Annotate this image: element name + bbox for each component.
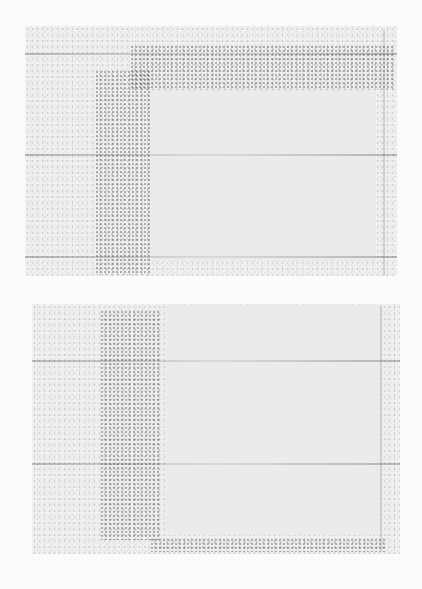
top-panel-grid-line: [25, 256, 397, 258]
bottom-panel-dark-band-horizontal: [150, 538, 385, 552]
bottom-panel-edge: [380, 306, 382, 551]
top-panel-grid-line: [25, 154, 397, 156]
top-panel-dark-band-vertical: [95, 70, 150, 275]
bottom-panel-dark-band-vertical: [100, 310, 160, 540]
bottom-panel-grid-line: [32, 463, 400, 465]
top-panel-grid-line: [25, 53, 397, 55]
top-panel-dark-band-horizontal: [130, 45, 395, 90]
bottom-panel-inner-box: [165, 305, 380, 535]
top-panel-inner-box: [150, 85, 375, 260]
bottom-panel-grid-line: [32, 360, 400, 362]
top-panel-edge: [383, 30, 385, 275]
